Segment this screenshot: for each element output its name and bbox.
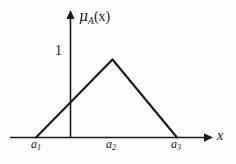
x-axis-point-label-a1: a1 <box>31 138 41 152</box>
mu-argument: (x) <box>94 9 110 24</box>
x-axis-arrowhead <box>204 133 213 141</box>
y-axis-label: μA(x) <box>79 9 110 26</box>
x-axis-point-label-a3: a3 <box>171 138 181 152</box>
x-axis-point-label-a2: a2 <box>106 138 116 152</box>
y-axis-tick-label-one: 1 <box>55 44 62 58</box>
y-axis-arrowhead <box>66 10 74 19</box>
membership-falling-edge <box>113 60 178 138</box>
a2-subscript: 2 <box>112 143 116 152</box>
a3-subscript: 3 <box>177 143 181 152</box>
mu-symbol: μ <box>79 8 88 24</box>
a1-subscript: 1 <box>37 143 41 152</box>
membership-rising-edge <box>36 60 113 138</box>
figure-container: μA(x) 1 x a1 a2 a3 <box>0 0 236 164</box>
x-axis-label: x <box>217 129 223 143</box>
